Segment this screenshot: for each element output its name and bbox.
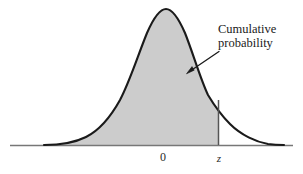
annotation-line-2: probability bbox=[218, 36, 276, 50]
cumulative-probability-annotation: Cumulative probability bbox=[218, 22, 276, 50]
axis-tick-label-z: z bbox=[207, 152, 231, 164]
axis-tick-label-zero: 0 bbox=[151, 150, 175, 165]
normal-distribution-figure: Cumulative probability 0 z bbox=[0, 0, 303, 174]
annotation-line-1: Cumulative bbox=[218, 22, 276, 36]
